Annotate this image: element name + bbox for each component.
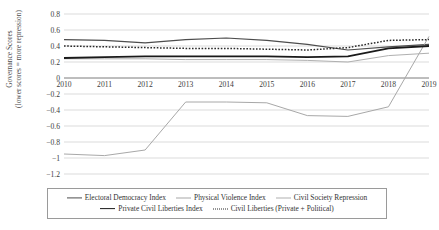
line-chart-figure: Governance Scores (lower scores = more r…: [0, 0, 439, 230]
legend-swatch-line-icon: [100, 206, 115, 212]
legend-label: Civil Society Repression: [294, 193, 368, 202]
chart-legend: Electoral Democracy IndexPhysical Violen…: [47, 188, 387, 219]
y-axis-title-line1: Governance Scores: [6, 0, 15, 144]
legend-item[interactable]: Civil Society Repression: [276, 193, 368, 202]
legend-label: Civil Liberties (Private + Political): [231, 204, 334, 213]
legend-item[interactable]: Physical Violence Index: [176, 193, 266, 202]
legend-swatch-line-icon: [276, 195, 291, 201]
y-axis-tick-label: −0.4: [46, 106, 60, 115]
y-axis-tick-label: 0.2: [51, 58, 61, 67]
legend-swatch-line-icon: [176, 195, 191, 201]
legend-row-primary: Electoral Democracy IndexPhysical Violen…: [52, 192, 382, 203]
y-axis-tick-label: 0.6: [51, 26, 61, 35]
y-axis-tick-label: −1: [52, 154, 60, 163]
legend-swatch-line-icon: [213, 206, 228, 212]
legend-item[interactable]: Electoral Democracy Index: [67, 193, 166, 202]
y-axis-tick-label: 0.4: [51, 42, 61, 51]
legend-label: Private Civil Liberties Index: [118, 204, 202, 213]
y-axis-tick-label: −0.2: [46, 90, 60, 99]
y-axis-tick-label: 0.8: [51, 10, 61, 19]
y-axis-tick-label: −0.6: [46, 122, 60, 131]
plot-area: 0.80.60.40.20−0.2−0.4−0.6−0.8−1−1.2 2010…: [64, 14, 429, 174]
y-axis-title-line2: (lower scores = more repression): [15, 0, 24, 144]
chart-canvas: [64, 14, 429, 174]
y-axis-tick-label: −1.2: [46, 170, 60, 179]
legend-item[interactable]: Private Civil Liberties Index: [100, 204, 202, 213]
y-axis-tick-label: −0.8: [46, 138, 60, 147]
y-axis-title: Governance Scores (lower scores = more r…: [6, 0, 24, 144]
legend-label: Electoral Democracy Index: [85, 193, 166, 202]
legend-label: Physical Violence Index: [194, 193, 266, 202]
series-line: [64, 36, 429, 155]
legend-item[interactable]: Civil Liberties (Private + Political): [213, 204, 334, 213]
legend-swatch-line-icon: [67, 195, 82, 201]
legend-row-secondary: Private Civil Liberties IndexCivil Liber…: [52, 203, 382, 214]
